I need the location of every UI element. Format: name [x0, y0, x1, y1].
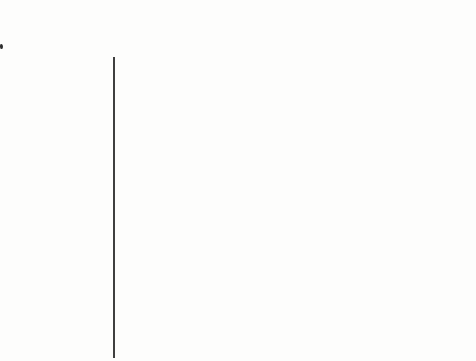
- book-page: [0, 0, 476, 361]
- star-construction-diagram: [0, 0, 476, 361]
